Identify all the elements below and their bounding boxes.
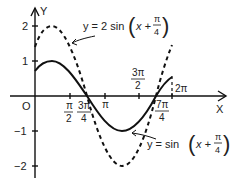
svg-text:π: π xyxy=(66,100,73,111)
svg-text:): ) xyxy=(162,13,169,38)
x-tick-pi: π xyxy=(102,99,109,110)
x-tick-pi-over-2: π 2 xyxy=(64,100,73,124)
y-tick-2: 2 xyxy=(22,20,28,32)
svg-text:4: 4 xyxy=(154,27,159,37)
sine-graph: Y X O 2 1 −1 −2 π 2 3π 4 π 3π 2 7π 4 2π … xyxy=(0,0,242,185)
svg-text:y = 2 sin: y = 2 sin xyxy=(83,20,124,32)
y-tick-1: 1 xyxy=(22,55,28,67)
x-axis-label: X xyxy=(216,103,224,115)
annotation-2sin: y = 2 sin ( x + π 4 ) xyxy=(72,13,169,45)
svg-text:x +: x + xyxy=(135,20,152,32)
svg-text:3π: 3π xyxy=(132,67,145,78)
svg-text:y = sin: y = sin xyxy=(147,138,179,150)
x-tick-3pi-over-4: 3π 4 xyxy=(77,100,91,124)
svg-text:4: 4 xyxy=(159,112,165,123)
y-axis-label: Y xyxy=(40,5,48,17)
origin-label: O xyxy=(22,100,31,112)
x-tick-2pi: 2π xyxy=(175,83,188,94)
svg-text:x +: x + xyxy=(195,138,212,150)
svg-text:(: ( xyxy=(188,131,196,156)
y-tick-m1: −1 xyxy=(14,125,27,137)
svg-text:π: π xyxy=(154,14,160,24)
annotation-sin: y = sin ( x + π 4 ) xyxy=(132,130,230,156)
svg-text:3π: 3π xyxy=(78,100,91,111)
svg-text:4: 4 xyxy=(215,145,220,155)
svg-text:2: 2 xyxy=(66,113,72,124)
svg-text:π: π xyxy=(215,132,221,142)
svg-text:4: 4 xyxy=(81,113,87,124)
x-tick-7pi-over-4: 7π 4 xyxy=(155,99,169,123)
y-tick-m2: −2 xyxy=(14,160,27,172)
svg-text:7π: 7π xyxy=(156,99,169,110)
svg-text:): ) xyxy=(223,131,230,156)
svg-text:(: ( xyxy=(128,13,136,38)
svg-text:2: 2 xyxy=(135,80,141,91)
x-tick-3pi-over-2: 3π 2 xyxy=(131,67,145,91)
